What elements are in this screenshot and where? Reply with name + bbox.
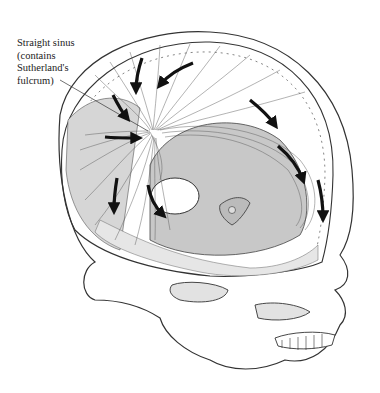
arrow-icon xyxy=(105,137,138,138)
skull-illustration xyxy=(0,0,380,393)
